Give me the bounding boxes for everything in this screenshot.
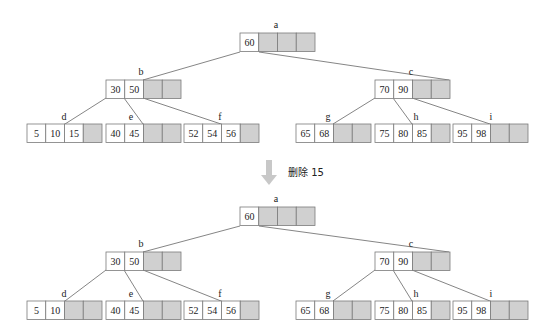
- tree-edge: [143, 98, 221, 124]
- key-value: 85: [417, 305, 427, 316]
- empty-cell: [431, 252, 450, 271]
- key-value: 5: [34, 305, 39, 316]
- key-value: 30: [110, 84, 120, 95]
- key-value: 98: [476, 128, 486, 139]
- tree-edge: [124, 270, 143, 301]
- tree-edge: [143, 270, 221, 301]
- tree-edge: [333, 270, 375, 301]
- key-value: 45: [129, 128, 139, 139]
- key-value: 10: [50, 128, 60, 139]
- node-label: e: [129, 288, 134, 299]
- empty-cell: [413, 80, 432, 99]
- node-label: d: [62, 111, 67, 122]
- key-value: 95: [457, 128, 467, 139]
- empty-cell: [259, 207, 278, 226]
- empty-cell: [278, 207, 297, 226]
- key-value: 68: [319, 128, 329, 139]
- empty-cell: [509, 301, 528, 320]
- node-label: f: [218, 288, 222, 299]
- empty-cell: [431, 80, 450, 99]
- tree-edge: [143, 226, 240, 252]
- empty-cell: [144, 301, 163, 320]
- tree-edge: [259, 226, 449, 252]
- tree-edge: [393, 98, 412, 124]
- empty-cell: [491, 124, 510, 143]
- tree-edge: [143, 52, 240, 80]
- empty-cell: [431, 124, 450, 143]
- key-value: 65: [300, 305, 310, 316]
- empty-cell: [240, 124, 259, 143]
- empty-cell: [65, 301, 84, 320]
- tree-edge: [65, 98, 106, 124]
- empty-cell: [352, 301, 371, 320]
- key-value: 10: [50, 305, 60, 316]
- btree-diagram: 60a3050b7090c51015d4045e525456f6568g7580…: [0, 0, 551, 330]
- btree-node-f: 525456f: [184, 288, 259, 320]
- empty-cell: [334, 301, 353, 320]
- node-label: b: [139, 66, 144, 77]
- key-value: 80: [398, 305, 408, 316]
- key-value: 5: [34, 128, 39, 139]
- tree-edge: [124, 98, 143, 124]
- empty-cell: [491, 301, 510, 320]
- node-label: c: [409, 238, 414, 249]
- empty-cell: [431, 301, 450, 320]
- key-value: 75: [379, 305, 389, 316]
- empty-cell: [296, 33, 315, 52]
- empty-cell: [162, 301, 181, 320]
- empty-cell: [83, 124, 102, 143]
- key-value: 56: [226, 305, 236, 316]
- node-label: h: [414, 111, 419, 122]
- key-value: 45: [129, 305, 139, 316]
- node-label: h: [414, 288, 419, 299]
- empty-cell: [278, 33, 297, 52]
- empty-cell: [144, 252, 163, 271]
- key-value: 40: [110, 128, 120, 139]
- btree-node-e: 4045e: [106, 288, 181, 320]
- empty-cell: [83, 301, 102, 320]
- empty-cell: [144, 80, 163, 99]
- node-label: a: [274, 19, 279, 30]
- key-value: 65: [300, 128, 310, 139]
- key-value: 68: [319, 305, 329, 316]
- tree-edge: [393, 270, 412, 301]
- key-value: 50: [129, 256, 139, 267]
- btree-node-i: 9598i: [453, 288, 528, 320]
- empty-cell: [413, 252, 432, 271]
- down-arrow-icon: [261, 160, 277, 185]
- btree-node-c: 7090c: [375, 238, 450, 271]
- empty-cell: [162, 252, 181, 271]
- empty-cell: [144, 124, 163, 143]
- key-value: 54: [207, 305, 217, 316]
- empty-cell: [509, 124, 528, 143]
- node-label: b: [139, 238, 144, 249]
- node-label: d: [62, 288, 67, 299]
- empty-cell: [352, 124, 371, 143]
- key-value: 60: [244, 37, 254, 48]
- btree-node-b: 3050b: [106, 66, 181, 99]
- key-value: 56: [226, 128, 236, 139]
- node-label: i: [490, 288, 493, 299]
- btree-node-d: 510d: [27, 288, 102, 320]
- key-value: 90: [398, 256, 408, 267]
- node-label: a: [274, 193, 279, 204]
- key-value: 50: [129, 84, 139, 95]
- btree-node-h: 758085h: [375, 288, 450, 320]
- btree-node-a: 60a: [240, 19, 315, 52]
- empty-cell: [162, 80, 181, 99]
- tree-edge: [333, 98, 375, 124]
- key-value: 60: [244, 211, 254, 222]
- empty-cell: [259, 33, 278, 52]
- tree-nodes: 60a3050b7090c51015d4045e525456f6568g7580…: [27, 19, 528, 320]
- key-value: 98: [476, 305, 486, 316]
- btree-node-d: 51015d: [27, 111, 102, 143]
- empty-cell: [334, 124, 353, 143]
- btree-node-a: 60a: [240, 193, 315, 226]
- key-value: 90: [398, 84, 408, 95]
- btree-node-g: 6568g: [296, 288, 371, 320]
- btree-node-e: 4045e: [106, 111, 181, 143]
- node-label: g: [326, 288, 331, 299]
- key-value: 95: [457, 305, 467, 316]
- node-label: f: [218, 111, 222, 122]
- key-value: 15: [69, 128, 79, 139]
